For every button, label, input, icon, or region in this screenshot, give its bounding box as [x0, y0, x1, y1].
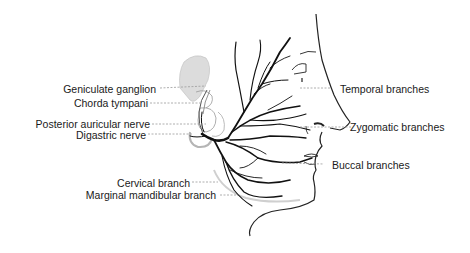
label-marginal-mandibular-branch: Marginal mandibular branch	[60, 189, 216, 201]
label-chorda-tympani: Chorda tympani	[36, 97, 148, 109]
face-outline	[214, 14, 350, 236]
label-digastric-nerve: Digastric nerve	[36, 129, 146, 141]
label-geniculate-ganglion: Geniculate ganglion	[36, 83, 156, 95]
label-buccal-branches: Buccal branches	[332, 159, 410, 171]
label-zygomatic-branches: Zygomatic branches	[350, 121, 445, 133]
label-cervical-branch: Cervical branch	[60, 177, 190, 189]
facial-nerve-diagram: Geniculate ganglion Chorda tympani Poste…	[0, 0, 470, 253]
label-temporal-branches: Temporal branches	[340, 83, 429, 95]
